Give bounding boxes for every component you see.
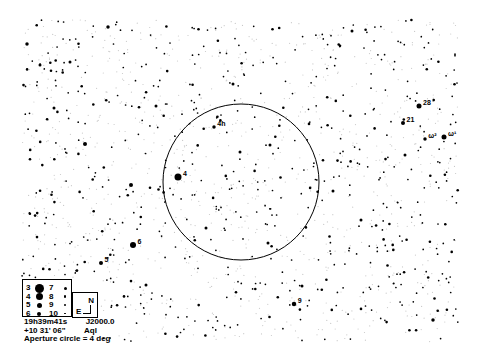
faint-star: [390, 291, 391, 292]
faint-star: [319, 118, 320, 119]
faint-star: [457, 106, 458, 107]
star: [302, 36, 304, 38]
faint-star: [340, 291, 341, 292]
faint-star: [329, 34, 330, 35]
star: [260, 318, 262, 320]
faint-star: [51, 97, 52, 98]
faint-star: [137, 23, 138, 24]
faint-star: [57, 154, 58, 155]
faint-star: [130, 71, 131, 72]
star: [69, 39, 71, 41]
faint-star: [60, 202, 61, 203]
star: [437, 253, 439, 255]
faint-star: [248, 300, 249, 301]
faint-star: [444, 169, 445, 170]
star: [439, 108, 441, 110]
faint-star: [53, 102, 54, 103]
star: [77, 90, 79, 92]
faint-star: [87, 30, 88, 31]
faint-star: [155, 38, 156, 39]
faint-star: [243, 180, 244, 181]
star: [94, 176, 96, 178]
star: [454, 53, 456, 55]
faint-star: [330, 97, 331, 98]
faint-star: [193, 126, 194, 127]
faint-star: [160, 68, 161, 69]
faint-star: [221, 27, 222, 28]
star: [194, 63, 196, 65]
faint-star: [294, 92, 295, 93]
faint-star: [194, 268, 195, 269]
star: [394, 61, 396, 63]
faint-star: [239, 336, 240, 337]
faint-star: [398, 20, 399, 21]
faint-star: [149, 27, 150, 28]
faint-star: [367, 157, 368, 158]
faint-star: [305, 238, 306, 239]
faint-star: [421, 171, 422, 172]
faint-star: [88, 262, 89, 263]
faint-star: [267, 230, 268, 231]
faint-star: [402, 43, 403, 44]
star: [77, 65, 79, 67]
faint-star: [111, 204, 112, 205]
star: [400, 284, 402, 286]
star: [415, 329, 418, 332]
star: [383, 171, 385, 173]
faint-star: [92, 228, 93, 229]
bright-star: [25, 42, 29, 46]
star: [428, 42, 430, 44]
faint-star: [221, 187, 222, 188]
star: [143, 307, 145, 309]
star: [210, 239, 212, 241]
star: [36, 212, 39, 215]
star: [358, 225, 360, 227]
faint-star: [341, 134, 342, 135]
faint-star: [439, 285, 440, 286]
star: [127, 194, 130, 197]
star: [229, 327, 231, 329]
faint-star: [128, 84, 129, 85]
star: [29, 274, 31, 276]
faint-star: [384, 29, 385, 30]
faint-star: [52, 224, 53, 225]
star: [197, 267, 199, 269]
star: [54, 59, 57, 62]
faint-star: [226, 50, 227, 51]
star: [226, 132, 228, 134]
star: [376, 251, 378, 253]
faint-star: [353, 318, 354, 319]
faint-star: [33, 137, 34, 138]
star: [264, 180, 266, 182]
faint-star: [86, 199, 87, 200]
labeled-star: [292, 302, 297, 307]
star: [420, 214, 422, 216]
faint-star: [437, 244, 438, 245]
faint-star: [373, 191, 374, 192]
star: [226, 178, 228, 180]
star: [422, 287, 424, 289]
faint-star: [70, 113, 71, 114]
faint-star: [255, 276, 256, 277]
faint-star: [160, 268, 161, 269]
star: [391, 244, 394, 247]
faint-star: [424, 201, 425, 202]
faint-star: [333, 49, 334, 50]
star: [260, 92, 262, 94]
faint-star: [241, 123, 242, 124]
faint-star: [386, 184, 387, 185]
faint-star: [82, 133, 83, 134]
star-label: 21: [407, 116, 415, 123]
faint-star: [59, 121, 60, 122]
faint-star: [296, 305, 297, 306]
star: [262, 61, 264, 63]
star: [26, 68, 29, 71]
star: [378, 179, 380, 181]
faint-star: [197, 261, 198, 262]
star: [223, 227, 225, 229]
star: [300, 193, 302, 195]
faint-star: [246, 59, 247, 60]
star: [344, 263, 346, 265]
star: [437, 61, 440, 64]
faint-star: [330, 179, 331, 180]
